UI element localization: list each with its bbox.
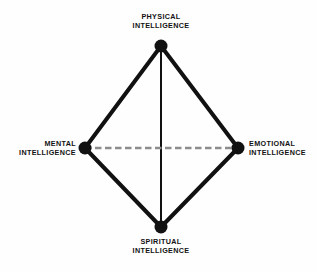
node-label-spiritual: SPIRITUAL INTELLIGENCE xyxy=(0,237,318,256)
edge-emotional-spiritual xyxy=(161,148,238,227)
edge-physical-emotional xyxy=(161,46,238,148)
node-physical[interactable] xyxy=(155,40,168,53)
node-label-mental-line2: INTELLIGENCE xyxy=(0,148,76,157)
edge-mental-spiritual xyxy=(85,148,161,227)
node-label-emotional-line2: INTELLIGENCE xyxy=(249,148,318,157)
node-label-mental-line1: MENTAL xyxy=(0,139,76,148)
node-label-spiritual-line1: SPIRITUAL xyxy=(0,237,318,246)
node-label-emotional-line1: EMOTIONAL xyxy=(249,139,318,148)
node-label-emotional: EMOTIONAL INTELLIGENCE xyxy=(249,139,318,158)
diagram-canvas xyxy=(0,0,318,272)
edge-physical-mental xyxy=(85,46,161,148)
node-label-physical-line1: PHYSICAL xyxy=(0,12,318,21)
four-intelligences-diagram: PHYSICAL INTELLIGENCE MENTAL INTELLIGENC… xyxy=(0,0,318,272)
node-label-spiritual-line2: INTELLIGENCE xyxy=(0,246,318,255)
node-mental[interactable] xyxy=(79,142,92,155)
node-label-physical: PHYSICAL INTELLIGENCE xyxy=(0,12,318,31)
node-spiritual[interactable] xyxy=(155,221,168,234)
node-label-mental: MENTAL INTELLIGENCE xyxy=(0,139,76,158)
node-label-physical-line2: INTELLIGENCE xyxy=(0,21,318,30)
node-emotional[interactable] xyxy=(232,142,245,155)
